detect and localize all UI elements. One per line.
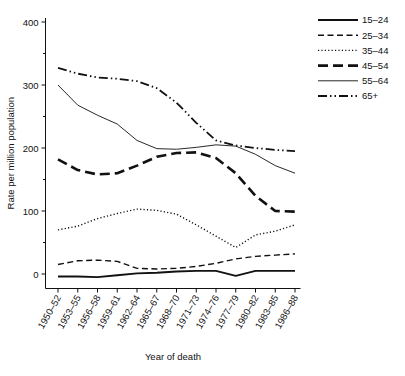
line-chart: 01002003004001950–521953–551956–581959–6…	[0, 0, 405, 376]
y-tick-label: 0	[33, 269, 38, 280]
legend-label: 15–24	[362, 14, 388, 25]
series-line-15-24	[58, 271, 295, 277]
y-tick-label: 200	[23, 143, 39, 154]
series-line-25-34	[58, 254, 295, 269]
y-tick-label: 100	[23, 206, 39, 217]
legend-label: 35–44	[362, 45, 388, 56]
chart-figure: 01002003004001950–521953–551956–581959–6…	[0, 0, 405, 376]
x-axis-title: Year of death	[145, 351, 201, 362]
legend-label: 55–64	[362, 75, 388, 86]
series-line-35-44	[58, 209, 295, 247]
plot-area: 01002003004001950–521953–551956–581959–6…	[5, 17, 301, 363]
y-tick-label: 300	[23, 80, 39, 91]
chart-legend: 15–2425–3435–4445–5455–6465+	[318, 14, 388, 101]
legend-label: 65+	[362, 90, 379, 101]
series-line-45-54	[58, 152, 295, 211]
series-line-55-64	[58, 85, 295, 173]
series-line-65+	[58, 68, 295, 151]
y-tick-label: 400	[23, 17, 39, 28]
legend-label: 25–34	[362, 30, 388, 41]
y-axis-title: Rate per million population	[5, 97, 16, 209]
legend-label: 45–54	[362, 60, 388, 71]
